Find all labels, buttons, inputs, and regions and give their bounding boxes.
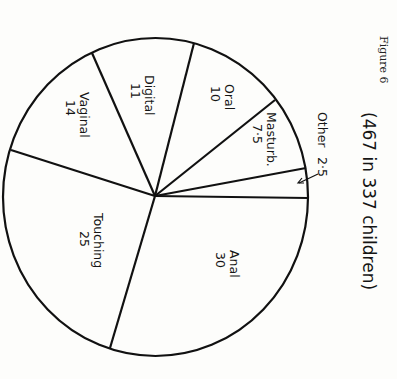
svg-text:2·5: 2·5	[315, 157, 330, 177]
svg-text:(467 in 337 children): (467 in 337 children)	[359, 112, 379, 290]
svg-text:Vaginal: Vaginal	[77, 92, 92, 138]
divider-other-masturb	[155, 168, 306, 196]
slice-label-touching: Touching 25	[77, 212, 106, 268]
chart-title: (467 in 337 children)	[359, 112, 379, 290]
slice-label-vaginal: Vaginal 14	[63, 92, 92, 138]
slice-label-masturb: Masturb. 7·5	[250, 112, 279, 167]
svg-text:Masturb.: Masturb.	[264, 112, 279, 167]
svg-text:30: 30	[213, 252, 228, 268]
svg-text:25: 25	[77, 231, 92, 247]
slice-label-oral: Oral 10	[208, 84, 237, 110]
slice-dividers	[11, 43, 308, 348]
svg-text:10: 10	[208, 86, 223, 102]
slice-label-digital: Digital 11	[128, 75, 157, 116]
divider-oral-digital	[155, 43, 194, 196]
svg-text:Figure 6: Figure 6	[377, 36, 390, 84]
svg-text:14: 14	[63, 100, 78, 116]
svg-text:11: 11	[128, 83, 143, 99]
divider-masturb-oral	[155, 100, 275, 196]
divider-anal-other	[155, 196, 308, 198]
svg-text:Digital: Digital	[142, 75, 157, 116]
slice-label-other: Other 2·5	[315, 112, 330, 177]
svg-text:Oral: Oral	[222, 84, 237, 110]
figure-label: Figure 6	[377, 36, 390, 84]
pie-chart: Digital 11 Vaginal 14 Oral 10 Masturb. 7…	[0, 0, 397, 379]
svg-text:Anal: Anal	[227, 250, 242, 278]
slice-label-anal: Anal 30	[213, 250, 242, 278]
svg-text:Touching: Touching	[91, 212, 106, 268]
svg-text:Other: Other	[315, 112, 330, 148]
svg-text:7·5: 7·5	[250, 124, 265, 144]
divider-touching-anal	[110, 196, 155, 348]
divider-vaginal-touching	[11, 150, 155, 196]
